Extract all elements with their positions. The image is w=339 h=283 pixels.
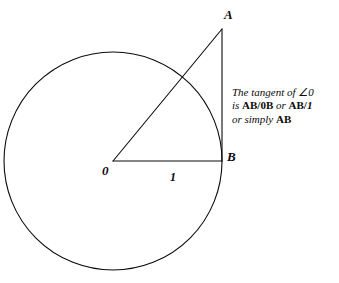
annotation-term-ab-over-ob: AB/0B — [242, 99, 273, 111]
annotation-line-2-prefix: is — [232, 99, 242, 111]
segment-hypotenuse-oa — [113, 29, 222, 161]
tangent-annotation-text: The tangent of ∠0 is AB/0B or AB/1 or si… — [232, 86, 338, 126]
point-label-origin: 0 — [102, 164, 109, 177]
annotation-line-1: The tangent of ∠0 — [232, 86, 338, 99]
annotation-line-2-conjunction: or — [273, 99, 288, 111]
annotation-line-3: or simply AB — [232, 113, 338, 126]
radius-length-label: 1 — [170, 171, 176, 183]
annotation-line-3-prefix: or simply — [232, 113, 276, 125]
annotation-line-2: is AB/0B or AB/1 — [232, 99, 338, 112]
geometry-drawing — [0, 0, 339, 283]
annotation-term-one: 1 — [307, 99, 313, 111]
annotation-term-ab: AB — [276, 113, 291, 125]
point-label-a: A — [224, 8, 233, 21]
point-label-b: B — [227, 150, 236, 163]
annotation-term-ab-over: AB/ — [289, 99, 307, 111]
tangent-circle-figure: A B 0 1 The tangent of ∠0 is AB/0B or AB… — [0, 0, 339, 283]
